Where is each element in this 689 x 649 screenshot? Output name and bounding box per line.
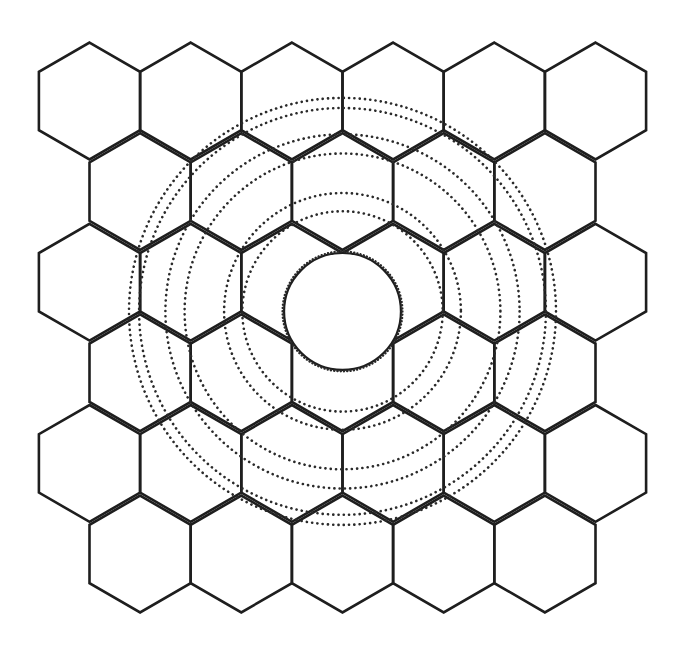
central-circle-group: [283, 251, 403, 371]
hexagon-ring-diagram: [0, 0, 689, 649]
central-circle: [284, 253, 401, 370]
